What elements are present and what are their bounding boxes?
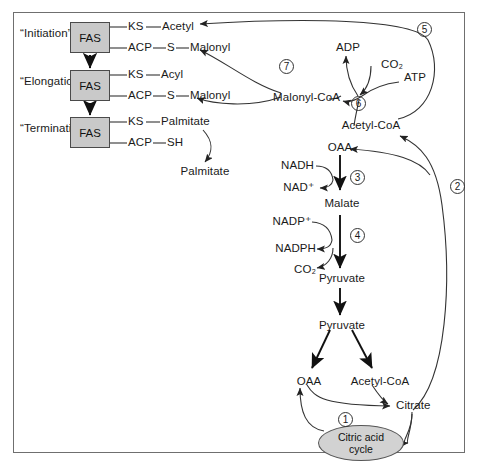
fas-label-termination: FAS — [70, 117, 110, 148]
citric-acid-cycle-label: Citric acid cycle — [318, 425, 404, 461]
label-nad-plus: NAD⁺ — [283, 182, 314, 194]
chain-malonyl-elongation: Malonyl — [190, 90, 230, 102]
stage-label-initiation: “Initiation” — [20, 28, 72, 40]
label-nadph: NADPH — [275, 243, 316, 255]
step-number-3: 3 — [350, 170, 365, 185]
label-co2-top: CO₂ — [381, 59, 403, 71]
label-atp: ATP — [404, 72, 426, 84]
chain-sh-termination: SH — [167, 137, 183, 149]
chain-acp-elongation: ACP — [128, 90, 152, 102]
fas-label-elongation: FAS — [70, 70, 110, 101]
label-co2-mid: CO₂ — [294, 264, 316, 276]
label-nadh: NADH — [281, 160, 314, 172]
label-citrate: Citrate — [396, 400, 431, 412]
label-malate: Malate — [324, 198, 359, 210]
label-oaa-bottom: OAA — [297, 376, 322, 388]
step-number-4: 4 — [350, 228, 365, 243]
chain-s-elongation: S — [167, 90, 175, 102]
chain-acp-initiation: ACP — [128, 42, 152, 54]
label-oaa-mid: OAA — [328, 142, 353, 154]
chain-s-initiation: S — [167, 42, 175, 54]
label-pyruvate-upper: Pyruvate — [319, 273, 365, 285]
step-number-1: 1 — [338, 412, 353, 427]
fas-label-initiation: FAS — [70, 22, 110, 53]
chain-ks-elongation: KS — [128, 69, 144, 81]
diagram-page: “Initiation” “Elongation” “Termination” … — [0, 0, 482, 476]
chain-acetyl-initiation: Acetyl — [162, 21, 194, 33]
chain-malonyl-initiation: Malonyl — [190, 42, 230, 54]
label-acetyl-coa-bottom: Acetyl-CoA — [351, 376, 410, 388]
label-palmitate-product: Palmitate — [181, 166, 230, 178]
label-malonyl-coa: Malonyl-CoA — [273, 92, 340, 104]
label-acetyl-coa-top: Acetyl-CoA — [342, 120, 401, 132]
step-number-2: 2 — [450, 179, 465, 194]
chain-ks-initiation: KS — [128, 21, 144, 33]
step-number-7: 7 — [279, 59, 294, 74]
step-number-5: 5 — [417, 22, 432, 37]
chain-ks-termination: KS — [128, 116, 144, 128]
step-number-6: 6 — [351, 96, 366, 111]
citric-acid-cycle-line1: Citric acid — [338, 431, 384, 443]
chain-palmitate-termination: Palmitate — [161, 116, 210, 128]
chain-acp-termination: ACP — [128, 137, 152, 149]
label-adp: ADP — [336, 42, 360, 54]
chain-acyl-elongation: Acyl — [161, 69, 183, 81]
label-nadp-plus: NADP⁺ — [273, 216, 311, 228]
label-pyruvate-lower: Pyruvate — [319, 320, 365, 332]
citric-acid-cycle-line2: cycle — [349, 443, 373, 455]
